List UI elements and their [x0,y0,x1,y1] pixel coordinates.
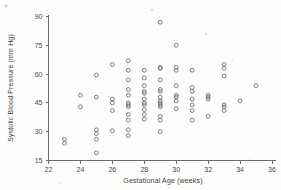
x-tick-label: 26 [108,166,116,173]
x-tick-label: 24 [77,166,85,173]
y-axis-ticks: 153045607590 [35,13,49,164]
plot-canvas: 153045607590 2224262830323436 Gestationa… [0,0,281,190]
data-point [110,97,114,101]
data-point [158,118,162,122]
data-point [206,114,210,118]
data-point [110,63,114,67]
data-point [110,129,114,133]
data-point [142,108,146,112]
data-point [222,63,226,67]
data-point [142,113,146,117]
data-point [126,93,130,97]
data-point [158,114,162,118]
data-point [142,84,146,88]
y-axis-title: Systolic Blood Pressure (mm Hg) [7,34,15,142]
data-point [142,117,146,121]
data-point [126,78,130,82]
y-tick-label: 90 [35,13,43,20]
data-point [190,86,194,90]
data-point [190,97,194,101]
data-point [94,151,98,155]
data-point [126,134,130,138]
x-axis-title: Gestational Age (weeks) [123,177,202,185]
data-point [254,84,258,88]
data-point [94,73,98,77]
data-point [222,109,226,113]
x-tick-label: 22 [45,166,53,173]
data-point [126,68,130,72]
x-tick-label: 30 [172,166,180,173]
data-point [158,95,162,99]
y-tick-label: 75 [35,42,43,49]
data-point [190,68,194,72]
data-point [142,68,146,72]
axis-lines [49,15,277,161]
x-tick-label: 28 [140,166,148,173]
data-point [158,20,162,24]
data-point [63,137,67,141]
data-point [142,97,146,101]
data-point [110,109,114,113]
data-point [126,118,130,122]
data-point [79,105,83,109]
data-point [126,128,130,132]
data-point [190,118,194,122]
data-point [158,78,162,82]
data-point [94,132,98,136]
data-point [126,113,130,117]
data-point [126,88,130,92]
y-tick-label: 60 [35,71,43,78]
data-point [174,107,178,111]
data-point [190,89,194,93]
data-point [238,99,242,103]
data-point [126,59,130,63]
data-point [110,101,114,105]
y-tick-label: 30 [35,128,43,135]
data-point [142,76,146,80]
data-points-layer [63,20,258,154]
data-point [94,95,98,99]
x-axis-ticks: 2224262830323436 [45,161,276,173]
y-tick-label: 15 [35,157,43,164]
data-point [63,141,67,145]
data-point [174,84,178,88]
data-point [222,66,226,70]
data-point [79,93,83,97]
x-tick-label: 36 [268,166,276,173]
data-point [94,128,98,132]
data-point [94,137,98,141]
data-point [190,109,194,113]
data-point [190,103,194,107]
x-tick-label: 34 [236,166,244,173]
data-point [174,43,178,47]
data-point [158,130,162,134]
x-tick-label: 32 [204,166,212,173]
data-point [222,74,226,78]
y-tick-label: 45 [35,99,43,106]
scatter-plot-figure: 153045607590 2224262830323436 Gestationa… [0,0,281,190]
data-point [174,99,178,103]
